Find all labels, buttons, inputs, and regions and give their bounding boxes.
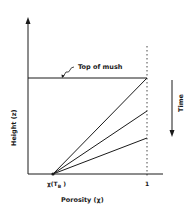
time-label: Time <box>177 94 185 112</box>
x-tick-left-label: χ(TB) <box>47 180 66 189</box>
porosity-height-diagram: Top of mush Time Height (z) χ(TB) 1 Poro… <box>0 0 195 222</box>
porosity-profile-line-2 <box>53 111 147 174</box>
y-axis-arrowhead-icon <box>26 17 31 24</box>
porosity-profile-line-1 <box>53 78 147 174</box>
y-axis-label: Height (z) <box>10 110 18 146</box>
porosity-profile-line-3 <box>53 138 147 174</box>
convergence-point <box>51 172 54 175</box>
time-arrow-down-icon <box>170 130 175 137</box>
x-tick-right-label: 1 <box>145 180 149 187</box>
annotation-leader-icon <box>63 67 74 77</box>
top-of-mush-label: Top of mush <box>78 63 123 71</box>
x-axis-label: Porosity (χ) <box>61 196 104 204</box>
